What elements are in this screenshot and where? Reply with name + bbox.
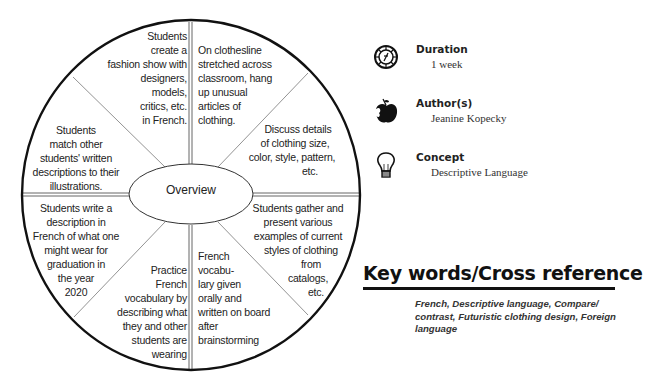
segment-line: up unusual (198, 85, 272, 99)
segment-fashion-show: Students create a fashion show with desi… (108, 29, 187, 127)
keywords-text: French, Descriptive language, Compare/ c… (415, 298, 625, 336)
duration-value: 1 week (431, 58, 462, 70)
segment-line: French of what one (30, 229, 122, 243)
segment-line: Students gather and (245, 201, 351, 215)
segment-line: etc. (240, 164, 344, 178)
segment-line: wearing (117, 347, 187, 361)
segment-line: articles of (198, 99, 272, 113)
authors-value: Jeanine Kopecky (431, 112, 506, 124)
segment-line: the year (30, 271, 122, 285)
keywords-title: Key words/Cross reference (363, 262, 643, 284)
overview-label: Overview (130, 183, 252, 197)
segment-line: might wear for (30, 243, 122, 257)
authors-title: Author(s) (416, 97, 472, 109)
segment-line: color, style, pattern, (240, 150, 344, 164)
segment-line: Discuss details (240, 122, 344, 136)
segment-line: descriptions to their (26, 165, 126, 179)
segment-line: designers, (108, 71, 187, 85)
segment-line: after (198, 319, 270, 333)
segment-discuss-details: Discuss details of clothing size, color,… (240, 122, 344, 178)
duration-title: Duration (416, 43, 468, 55)
segment-line: present various (245, 215, 351, 229)
segment-line: description in (30, 215, 122, 229)
segment-line: students are (117, 333, 187, 347)
segment-line: of clothing size, (240, 136, 344, 150)
segment-line: Students (108, 29, 187, 43)
segment-write-description: Students write a description in French o… (30, 201, 122, 299)
segment-line: lary given (198, 277, 270, 291)
segment-line: orally and (198, 291, 270, 305)
segment-line: create a (108, 43, 187, 57)
segment-line: describing what (117, 305, 187, 319)
segment-line: stretched across (198, 57, 272, 71)
segment-line: French (117, 277, 187, 291)
compass-clock-icon (373, 43, 401, 73)
segment-french-vocabulary: French vocabu- lary given orally and wri… (198, 249, 270, 347)
segment-clothesline: On clothesline stretched across classroo… (198, 43, 272, 127)
segment-line: On clothesline (198, 43, 272, 57)
segment-line: students' written (26, 151, 126, 165)
concept-value: Descriptive Language (431, 166, 528, 178)
segment-line: match other (26, 137, 126, 151)
segment-line: brainstorming (198, 333, 270, 347)
segment-line: Students write a (30, 201, 122, 215)
segment-line: graduation in (30, 257, 122, 271)
segment-line: vocabulary by (117, 291, 187, 305)
apple-icon (373, 97, 401, 127)
segment-line: examples of current (245, 229, 351, 243)
keywords-line: contrast, Futuristic clothing design, Fo… (415, 311, 625, 324)
segment-line: vocabu- (198, 263, 270, 277)
segment-line: Practice (117, 263, 187, 277)
segment-line: written on board (198, 305, 270, 319)
segment-line: classroom, hang (198, 71, 272, 85)
keywords-divider (363, 287, 615, 290)
segment-line: fashion show with (108, 57, 187, 71)
segment-line: French (198, 249, 270, 263)
segment-line: they and other (117, 319, 187, 333)
concept-title: Concept (416, 151, 464, 163)
lightbulb-icon (373, 151, 401, 181)
segment-line: Students (26, 123, 126, 137)
segment-match-descriptions: Students match other students' written d… (26, 123, 126, 193)
keywords-line: language (415, 323, 625, 336)
keywords-line: French, Descriptive language, Compare/ (415, 298, 625, 311)
segment-practice-french: Practice French vocabulary by describing… (117, 263, 187, 361)
segment-line: 2020 (30, 285, 122, 299)
segment-line: illustrations. (26, 179, 126, 193)
segment-line: critics, etc. (108, 99, 187, 113)
segment-line: models, (108, 85, 187, 99)
